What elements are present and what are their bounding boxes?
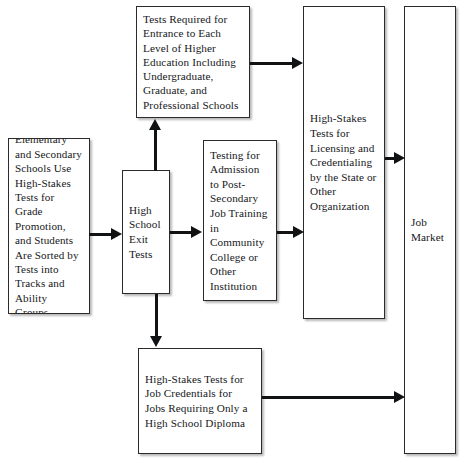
- node-job-market: Job Market: [404, 6, 456, 454]
- node-elementary-secondary-schools: Elementary and Secondary Schools Use Hig…: [8, 138, 90, 314]
- arrow-post-secondary-to-licensing-head: [293, 226, 304, 238]
- arrow-licensing-to-job-market-head: [394, 152, 405, 164]
- arrow-post-secondary-to-licensing-shaft: [277, 231, 294, 234]
- node-post-secondary-label: Testing for Admission to Post-Secondary …: [204, 148, 276, 294]
- node-exit-tests-label: High School Exit Tests: [123, 203, 169, 261]
- arrow-exit-tests-to-higher-education-head: [149, 119, 161, 130]
- arrow-exit-tests-to-post-secondary-shaft: [170, 231, 192, 234]
- arrow-exit-tests-to-post-secondary-head: [191, 226, 202, 238]
- arrow-exit-tests-to-job-credentials-head: [150, 336, 162, 347]
- node-job-market-label: Job Market: [405, 215, 455, 244]
- arrow-exit-tests-to-higher-education-shaft: [154, 129, 157, 171]
- arrow-elementary-to-exit-tests-head: [111, 228, 122, 240]
- arrow-higher-education-to-licensing-head: [292, 57, 303, 69]
- node-higher-education-tests: Tests Required for Entrance to Each Leve…: [136, 6, 250, 118]
- flowchart-diagram: Elementary and Secondary Schools Use Hig…: [0, 0, 464, 463]
- node-higher-education-label: Tests Required for Entrance to Each Leve…: [137, 12, 249, 112]
- node-elementary-label: Elementary and Secondary Schools Use Hig…: [9, 138, 89, 314]
- node-licensing-credentialing-tests: High-Stakes Tests for Licensing and Cred…: [303, 6, 385, 319]
- arrow-higher-education-to-licensing-shaft: [250, 62, 293, 65]
- node-job-credentials-tests: High-Stakes Tests for Job Credentials fo…: [138, 348, 262, 454]
- node-high-school-exit-tests: High School Exit Tests: [122, 170, 170, 294]
- arrow-job-credentials-to-job-market-shaft: [262, 396, 397, 399]
- node-job-credentials-label: High-Stakes Tests for Job Credentials fo…: [139, 372, 261, 430]
- node-post-secondary-testing: Testing for Admission to Post-Secondary …: [203, 140, 277, 301]
- arrow-job-credentials-to-job-market-head: [394, 391, 405, 403]
- arrow-exit-tests-to-job-credentials-shaft: [155, 294, 158, 337]
- node-licensing-label: High-Stakes Tests for Licensing and Cred…: [304, 111, 384, 213]
- arrow-elementary-to-exit-tests-shaft: [89, 233, 112, 236]
